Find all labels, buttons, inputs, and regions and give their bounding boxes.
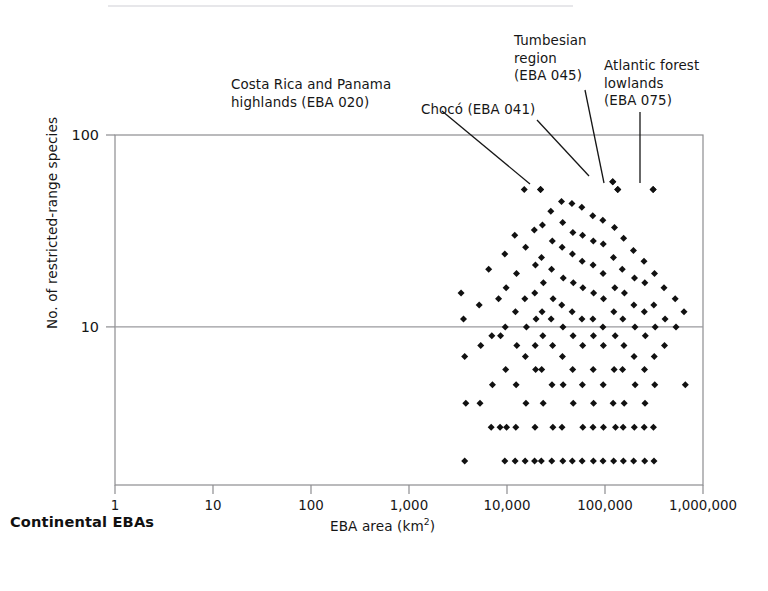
x-axis-label-base: EBA area (km	[330, 518, 424, 534]
data-point-marker	[611, 284, 618, 291]
data-point-marker	[558, 302, 565, 309]
data-point-marker	[578, 204, 585, 211]
data-point-marker	[548, 266, 555, 273]
data-point-marker	[476, 302, 483, 309]
data-point-marker	[570, 332, 577, 339]
data-point-marker	[631, 424, 638, 431]
data-point-marker	[631, 353, 638, 360]
data-point-marker	[531, 458, 538, 465]
data-point-marker	[652, 323, 659, 330]
data-point-marker	[641, 366, 648, 373]
data-point-marker	[620, 424, 627, 431]
data-point-marker	[540, 279, 547, 286]
data-markers-group	[458, 178, 689, 464]
data-point-marker	[611, 224, 618, 231]
y-tick-marks-group	[106, 135, 115, 327]
data-point-marker	[559, 323, 566, 330]
data-point-marker	[550, 295, 557, 302]
data-point-marker	[600, 381, 607, 388]
data-point-marker	[503, 424, 510, 431]
data-point-marker	[522, 458, 529, 465]
data-point-marker	[549, 238, 556, 245]
data-point-marker	[620, 458, 627, 465]
data-point-marker	[549, 424, 556, 431]
leader-line-tumbesian-region	[585, 90, 604, 183]
data-point-marker	[462, 400, 469, 407]
leader-line-costa-rica-panama-highlands	[442, 111, 530, 184]
data-point-marker	[559, 458, 566, 465]
x-axis-label-tail: )	[430, 518, 435, 534]
data-point-marker	[538, 366, 545, 373]
data-point-marker	[651, 353, 658, 360]
data-point-marker	[651, 381, 658, 388]
x-tick-label-1000: 1,000	[390, 498, 428, 513]
annotation-costa-rica-panama-highlands: Costa Rica and Panama highlands (EBA 020…	[231, 76, 441, 111]
data-point-marker	[539, 308, 546, 315]
data-point-marker	[512, 308, 519, 315]
data-point-marker	[640, 258, 647, 265]
data-point-marker	[503, 284, 510, 291]
data-point-marker	[619, 366, 626, 373]
data-point-marker	[611, 366, 618, 373]
data-point-marker	[599, 458, 606, 465]
data-point-marker	[641, 308, 648, 315]
data-point-marker	[501, 250, 508, 257]
data-point-marker	[559, 219, 566, 226]
x-tick-marks-group	[115, 485, 703, 494]
data-point-marker	[579, 381, 586, 388]
x-tick-label-100000: 100,000	[577, 498, 632, 513]
data-point-marker	[579, 342, 586, 349]
data-point-marker	[531, 424, 538, 431]
data-point-marker-costa-rica-panama-highlands	[537, 186, 544, 193]
data-point-marker	[642, 332, 649, 339]
data-point-marker	[532, 366, 539, 373]
data-point-marker	[590, 332, 597, 339]
data-point-marker	[662, 315, 669, 322]
data-point-marker	[600, 424, 607, 431]
data-point-marker	[631, 274, 638, 281]
x-tick-label-1000000: 1,000,000	[669, 498, 737, 513]
data-point-marker	[590, 290, 597, 297]
data-point-marker	[631, 323, 638, 330]
data-point-marker	[549, 342, 556, 349]
data-point-marker-choco	[609, 178, 616, 185]
data-point-marker	[672, 295, 679, 302]
data-point-marker-atlantic-forest-lowlands	[650, 186, 657, 193]
data-point-marker	[521, 186, 528, 193]
data-point-marker	[579, 284, 586, 291]
data-point-marker	[547, 208, 554, 215]
data-point-marker	[589, 315, 596, 322]
data-point-marker	[610, 254, 617, 261]
data-point-marker	[610, 458, 617, 465]
data-point-marker	[630, 302, 637, 309]
data-point-marker	[538, 458, 545, 465]
data-point-marker	[485, 266, 492, 273]
data-point-marker	[549, 381, 556, 388]
data-point-marker	[569, 308, 576, 315]
data-point-marker	[642, 400, 649, 407]
data-point-marker	[619, 315, 626, 322]
data-point-marker	[569, 366, 576, 373]
data-point-marker	[461, 458, 468, 465]
data-point-marker	[489, 381, 496, 388]
data-point-marker	[641, 458, 648, 465]
data-point-marker	[513, 381, 520, 388]
data-point-marker	[590, 262, 597, 269]
data-point-marker	[578, 315, 585, 322]
data-point-marker	[620, 342, 627, 349]
data-point-marker	[512, 458, 519, 465]
data-point-marker	[461, 353, 468, 360]
data-point-marker	[477, 342, 484, 349]
data-point-marker	[501, 458, 508, 465]
data-point-marker	[630, 247, 637, 254]
data-point-marker	[522, 400, 529, 407]
data-point-marker	[569, 229, 576, 236]
x-tick-label-100: 100	[298, 498, 324, 513]
data-point-marker	[589, 212, 596, 219]
data-point-marker	[600, 342, 607, 349]
data-point-marker	[599, 217, 606, 224]
data-point-marker	[621, 290, 628, 297]
data-point-marker	[620, 235, 627, 242]
data-point-marker	[589, 424, 596, 431]
data-point-marker	[513, 342, 520, 349]
